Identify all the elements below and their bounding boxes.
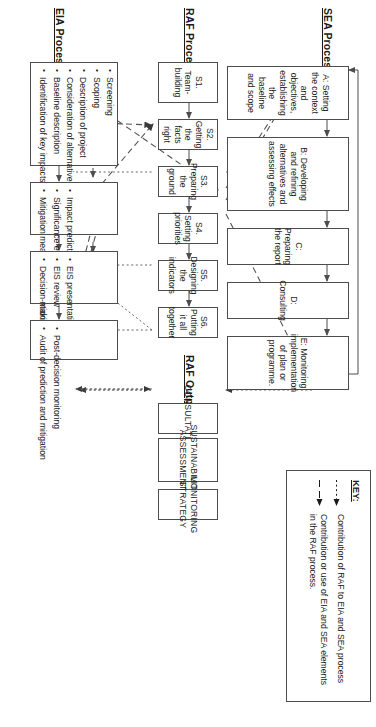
raf-step-s6[interactable]: S6. Putting it all together — [158, 307, 218, 338]
sea-step-c[interactable]: C: Preparing the report — [227, 228, 349, 265]
dashed-arrow-icon — [317, 480, 328, 514]
list-item: Decision-making — [36, 266, 49, 298]
eia-group-2-list: Impact prediction Significance evaluatio… — [36, 188, 76, 229]
raf-step-s1[interactable]: S1. Team-building — [158, 62, 218, 103]
list-item: Identification of key impacts — [36, 77, 49, 160]
eia-group-1-list: Screening Scoping Description of project… — [36, 68, 116, 160]
list-item: EIS presentation — [63, 266, 76, 298]
raf-step-s4[interactable]: S4. Setting priorities — [158, 213, 218, 244]
dotted-arrow-icon — [334, 480, 345, 514]
list-item: Impact prediction — [63, 197, 76, 229]
raf-step-s3[interactable]: S3. Preparing the ground — [158, 166, 218, 197]
raf-step-s5[interactable]: S5. Designing the indicators — [158, 260, 218, 291]
sea-step-d[interactable]: D: Consulting — [227, 282, 349, 319]
key-entry-dotted: Contribution of RAF to EIA and SEA proce… — [334, 480, 346, 692]
eia-group-1[interactable]: Screening Scoping Description of project… — [30, 62, 118, 166]
list-item: Significance evaluation — [49, 197, 62, 229]
list-item: Baseline description — [49, 77, 62, 160]
list-item: Screening — [103, 77, 116, 160]
list-item: Mitigation measure identification — [36, 197, 49, 229]
sea-step-a[interactable]: A: Setting the context and objectives, e… — [227, 66, 349, 120]
band-title-sea: SEA Process — [322, 8, 334, 74]
list-item: EIS review — [49, 266, 62, 298]
sea-step-e[interactable]: E: Monitoring implementation of plan or … — [227, 336, 349, 390]
eia-group-4[interactable]: Post-decision monitoring Audit of predic… — [30, 320, 118, 360]
key-entry-dotted-text: Contribution of RAF to EIA and SEA proce… — [335, 514, 346, 683]
eia-group-3-list: EIS presentation EIS review Decision-mak… — [36, 257, 76, 298]
list-item: Audit of prediction and mitigation — [36, 335, 49, 354]
key-title: KEY: — [351, 480, 362, 692]
list-item: Scoping — [89, 77, 102, 160]
list-item: Consideration of alternatives — [63, 77, 76, 160]
band-title-eia: EIA Process — [54, 8, 66, 70]
eia-group-4-list: Post-decision monitoring Audit of predic… — [36, 326, 63, 354]
key-entry-dashed: Contribution or use of EIA and SEA eleme… — [307, 480, 329, 692]
key-legend-box: KEY: Contribution of RAF to EIA and SEA … — [286, 470, 371, 702]
list-item: Description of project — [76, 77, 89, 160]
eia-group-3[interactable]: EIS presentation EIS review Decision-mak… — [30, 251, 118, 304]
diagram-rotation-wrapper: SEA Process A: Setting the context and o… — [0, 0, 376, 727]
diagram-canvas: SEA Process A: Setting the context and o… — [0, 0, 376, 727]
raf-output-monitoring-strategy[interactable]: MONITORING STRATEGY — [158, 489, 218, 520]
raf-step-s2[interactable]: S2. Getting the facts right — [158, 119, 218, 150]
key-entry-dashed-text: Contribution or use of EIA and SEA eleme… — [307, 514, 329, 692]
list-item: Post-decision monitoring — [49, 335, 62, 354]
sea-step-b[interactable]: B: Developing and refining alternatives … — [227, 137, 349, 211]
eia-group-2[interactable]: Impact prediction Significance evaluatio… — [30, 182, 118, 235]
